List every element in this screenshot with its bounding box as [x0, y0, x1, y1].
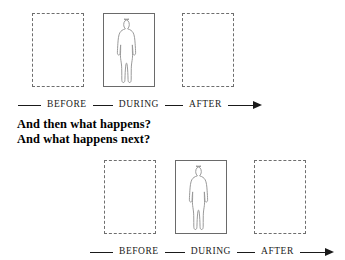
axis-segment	[93, 105, 113, 106]
axis-label-after: AFTER	[255, 247, 300, 257]
frame-before-bottom[interactable]	[104, 160, 156, 234]
frame-during-bottom[interactable]	[175, 160, 227, 234]
bottom-axis: BEFORE DURING AFTER	[72, 243, 345, 260]
axis-label-during: DURING	[113, 100, 165, 110]
axis-segment	[18, 105, 41, 106]
axis-label-during: DURING	[185, 247, 237, 257]
axis-label-before: BEFORE	[41, 100, 93, 110]
axis-segment	[300, 252, 326, 253]
top-axis: BEFORE DURING AFTER	[0, 96, 290, 114]
standing-person-icon	[184, 164, 218, 232]
frame-during-top[interactable]	[103, 13, 155, 87]
axis-segment	[90, 252, 113, 253]
frame-before-top[interactable]	[32, 13, 84, 87]
axis-segment	[237, 252, 255, 253]
axis-label-before: BEFORE	[113, 247, 165, 257]
caption-block: And then what happens? And what happens …	[17, 117, 151, 146]
right-arrow-icon	[325, 248, 334, 256]
caption-line-1: And then what happens?	[17, 117, 151, 132]
axis-segment	[165, 105, 183, 106]
frame-after-top[interactable]	[182, 13, 234, 87]
axis-segment	[228, 105, 254, 106]
axis-label-after: AFTER	[183, 100, 228, 110]
axis-segment	[165, 252, 185, 253]
right-arrow-icon	[253, 101, 262, 109]
caption-line-2: And what happens next?	[17, 132, 151, 147]
standing-person-icon	[112, 17, 146, 85]
frame-after-bottom[interactable]	[254, 160, 306, 234]
diagram-canvas: BEFORE DURING AFTER And then what happen…	[0, 0, 345, 260]
